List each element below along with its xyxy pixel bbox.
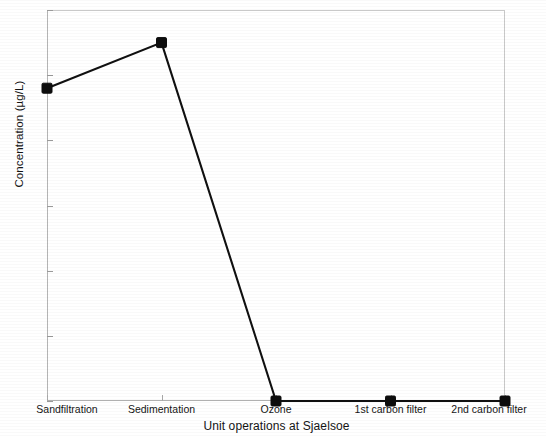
y-axis-title: Concentration (µg/L) xyxy=(13,54,25,214)
x-axis-title: Unit operations at Sjaelsoe xyxy=(47,419,506,433)
y-axis-tick-mark xyxy=(47,401,53,402)
y-axis-tick-mark xyxy=(47,10,53,11)
plot-area xyxy=(47,10,505,401)
y-axis-tick-mark xyxy=(47,140,53,141)
x-axis-tick-mark xyxy=(47,395,48,401)
y-axis-tick-mark xyxy=(47,206,53,207)
y-axis-tick-mark xyxy=(47,271,53,272)
x-axis-tick-mark xyxy=(391,395,392,401)
x-axis-tick-mark xyxy=(505,395,506,401)
x-axis-tick-label: Sedimentation xyxy=(128,403,195,415)
x-axis-tick-mark xyxy=(276,395,277,401)
x-axis-tick-label: 1st carbon filter xyxy=(355,403,427,415)
x-axis-tick-mark xyxy=(162,395,163,401)
x-axis-tick-label: 2nd carbon filter xyxy=(451,403,526,415)
chart-figure: 0102030405060 SandfiltrationSedimentatio… xyxy=(0,0,546,436)
x-axis-tick-label: Sandfiltration xyxy=(36,403,97,415)
y-axis-tick-mark xyxy=(47,75,53,76)
y-axis-tick-mark xyxy=(47,336,53,337)
x-axis-tick-label: Ozone xyxy=(261,403,292,415)
